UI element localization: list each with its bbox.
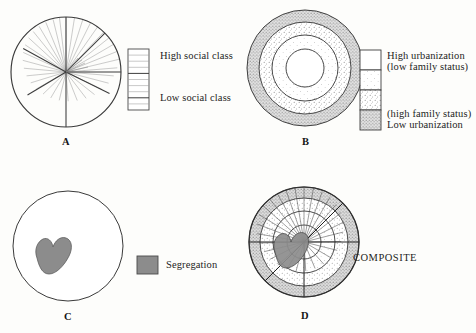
panel-d-diagram [246,182,370,306]
panel-d-composite-label: COMPOSITE [353,252,417,263]
panel-b-zone-core [286,49,324,87]
panel-c-legend: Segregation [136,255,236,279]
panel-b-legend-label-1: High urbanization [387,50,465,62]
panel-b-letter: B [302,136,309,147]
panel-b-zonal-model [243,6,369,132]
panel-b-legend-swatch [359,49,383,131]
panel-a-diagram [6,8,130,132]
panel-d-letter: D [301,310,309,321]
panel-c-segregation-model [8,186,130,308]
panel-c-legend-swatch [136,255,160,276]
panel-a-letter: A [62,136,70,147]
panel-a-legend-swatch [127,48,157,112]
panel-d-composite-model [246,182,370,306]
panel-c-letter: C [64,311,72,322]
panel-c-diagram [8,186,130,308]
panel-a-legend-low-label: Low social class [160,92,231,104]
panel-a-legend: High social class Low social class [127,48,235,112]
panel-b-diagram [243,6,369,132]
panel-b-legend-label-3: (high family status) [387,108,471,120]
panel-a-legend-high-label: High social class [160,50,233,62]
panel-b-legend: High urbanization (low family status) (h… [359,49,476,133]
panel-b-legend-label-4: Low urbanization [387,119,463,131]
panel-a-sector-model [6,8,130,132]
panel-c-legend-label: Segregation [166,259,217,271]
panel-b-legend-label-2: (low family status) [387,61,468,73]
